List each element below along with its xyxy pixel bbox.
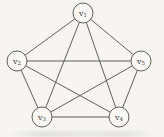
edge-v2-v3 — [21, 70, 38, 108]
edge-v2-v4 — [26, 66, 110, 112]
edge-v3-v5 — [51, 66, 133, 112]
edge-v4-v5 — [123, 70, 138, 107]
k5-graph-figure: v1v2v3v4v5 — [0, 0, 164, 137]
edge-v1-v2 — [25, 19, 75, 55]
k5-graph: v1v2v3v4v5 — [0, 0, 164, 137]
edge-v1-v4 — [86, 22, 115, 107]
edge-v1-v3 — [46, 22, 80, 107]
edge-v1-v5 — [91, 19, 134, 54]
